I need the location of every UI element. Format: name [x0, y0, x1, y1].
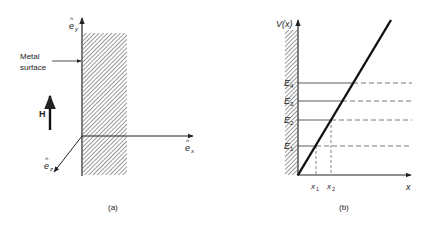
diagram-canvas: Metal surface H ^ e y ^ e x ^ e z (a)	[0, 0, 431, 227]
x1-sub: 1	[316, 186, 319, 192]
field-label: H	[39, 109, 46, 119]
potential-line	[298, 20, 391, 175]
axis-x-sub: x	[190, 148, 195, 154]
axis-x-label: e	[185, 143, 190, 153]
x-axis-label: x	[405, 182, 411, 192]
metal-hatch-region	[83, 33, 127, 175]
axis-z-sub: z	[49, 166, 53, 172]
x2-sub: 2	[332, 186, 335, 192]
axis-z-label: e	[44, 161, 49, 171]
caption-a: (a)	[108, 203, 118, 212]
panel-b: V(x) x E 4 E 3 E 2 E 1 x 1 x 2 (b)	[276, 19, 412, 212]
metal-label-line1: Metal	[20, 52, 40, 61]
metal-label-line2: surface	[20, 63, 47, 72]
axis-y-sub: y	[74, 26, 79, 32]
v-axis-label: V(x)	[276, 19, 293, 29]
axis-y-label: e	[69, 21, 74, 31]
panel-a: Metal surface H ^ e y ^ e x ^ e z (a)	[20, 16, 195, 212]
caption-b: (b)	[339, 203, 349, 212]
axis-z-line	[54, 136, 82, 172]
energy-level-lines	[298, 83, 412, 146]
